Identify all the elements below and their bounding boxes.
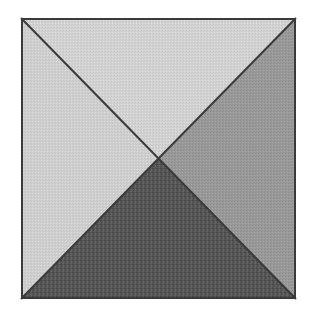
figure-container: Square divided by two diagonals into fou… bbox=[0, 0, 312, 315]
shaded-square-figure: Square divided by two diagonals into fou… bbox=[0, 0, 312, 315]
